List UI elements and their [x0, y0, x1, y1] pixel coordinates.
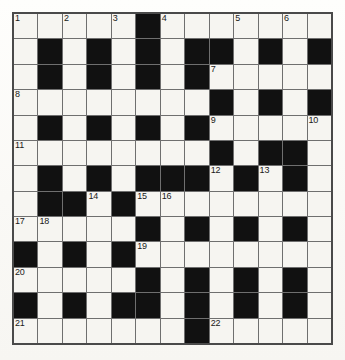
open-cell[interactable]	[112, 141, 135, 165]
open-cell[interactable]: 3	[112, 14, 135, 38]
open-cell[interactable]: 12	[210, 166, 233, 190]
open-cell[interactable]	[308, 217, 331, 241]
open-cell[interactable]	[161, 319, 184, 343]
open-cell[interactable]	[308, 293, 331, 317]
open-cell[interactable]	[259, 116, 282, 140]
open-cell[interactable]	[259, 242, 282, 266]
open-cell[interactable]	[234, 192, 257, 216]
open-cell[interactable]	[259, 192, 282, 216]
open-cell[interactable]	[210, 293, 233, 317]
open-cell[interactable]	[161, 242, 184, 266]
open-cell[interactable]	[234, 65, 257, 89]
open-cell[interactable]: 4	[161, 14, 184, 38]
open-cell[interactable]	[234, 39, 257, 63]
open-cell[interactable]: 20	[14, 268, 37, 292]
open-cell[interactable]	[87, 319, 110, 343]
open-cell[interactable]	[210, 268, 233, 292]
open-cell[interactable]: 5	[234, 14, 257, 38]
open-cell[interactable]: 17	[14, 217, 37, 241]
open-cell[interactable]	[87, 14, 110, 38]
open-cell[interactable]	[63, 166, 86, 190]
open-cell[interactable]	[136, 90, 159, 114]
open-cell[interactable]	[161, 90, 184, 114]
open-cell[interactable]	[308, 141, 331, 165]
open-cell[interactable]	[136, 141, 159, 165]
open-cell[interactable]	[185, 141, 208, 165]
open-cell[interactable]: 9	[210, 116, 233, 140]
open-cell[interactable]	[308, 319, 331, 343]
open-cell[interactable]	[234, 242, 257, 266]
open-cell[interactable]	[112, 166, 135, 190]
open-cell[interactable]	[308, 14, 331, 38]
open-cell[interactable]: 22	[210, 319, 233, 343]
open-cell[interactable]	[259, 14, 282, 38]
open-cell[interactable]	[87, 217, 110, 241]
open-cell[interactable]	[259, 319, 282, 343]
open-cell[interactable]	[161, 268, 184, 292]
open-cell[interactable]: 7	[210, 65, 233, 89]
open-cell[interactable]	[38, 14, 61, 38]
open-cell[interactable]	[210, 242, 233, 266]
open-cell[interactable]	[210, 14, 233, 38]
open-cell[interactable]	[259, 293, 282, 317]
open-cell[interactable]	[63, 268, 86, 292]
open-cell[interactable]	[308, 65, 331, 89]
open-cell[interactable]	[63, 116, 86, 140]
open-cell[interactable]	[112, 116, 135, 140]
open-cell[interactable]	[38, 319, 61, 343]
open-cell[interactable]	[283, 242, 306, 266]
open-cell[interactable]	[112, 90, 135, 114]
open-cell[interactable]: 8	[14, 90, 37, 114]
open-cell[interactable]	[234, 141, 257, 165]
open-cell[interactable]	[283, 192, 306, 216]
open-cell[interactable]	[185, 90, 208, 114]
open-cell[interactable]	[63, 141, 86, 165]
open-cell[interactable]	[87, 268, 110, 292]
open-cell[interactable]	[38, 242, 61, 266]
open-cell[interactable]: 11	[14, 141, 37, 165]
open-cell[interactable]	[234, 90, 257, 114]
open-cell[interactable]	[87, 293, 110, 317]
open-cell[interactable]	[14, 166, 37, 190]
open-cell[interactable]: 13	[259, 166, 282, 190]
open-cell[interactable]	[185, 14, 208, 38]
open-cell[interactable]	[63, 90, 86, 114]
open-cell[interactable]	[234, 116, 257, 140]
open-cell[interactable]	[87, 90, 110, 114]
open-cell[interactable]	[185, 242, 208, 266]
open-cell[interactable]	[38, 90, 61, 114]
open-cell[interactable]	[161, 39, 184, 63]
open-cell[interactable]	[308, 166, 331, 190]
open-cell[interactable]	[38, 293, 61, 317]
open-cell[interactable]	[283, 90, 306, 114]
open-cell[interactable]	[38, 268, 61, 292]
open-cell[interactable]: 18	[38, 217, 61, 241]
open-cell[interactable]	[161, 116, 184, 140]
open-cell[interactable]	[112, 268, 135, 292]
open-cell[interactable]	[161, 65, 184, 89]
open-cell[interactable]	[14, 65, 37, 89]
open-cell[interactable]	[63, 65, 86, 89]
open-cell[interactable]	[259, 217, 282, 241]
open-cell[interactable]: 15	[136, 192, 159, 216]
open-cell[interactable]: 10	[308, 116, 331, 140]
open-cell[interactable]	[283, 65, 306, 89]
open-cell[interactable]	[210, 217, 233, 241]
open-cell[interactable]	[112, 217, 135, 241]
open-cell[interactable]	[161, 141, 184, 165]
open-cell[interactable]	[185, 192, 208, 216]
open-cell[interactable]	[14, 39, 37, 63]
open-cell[interactable]	[308, 192, 331, 216]
open-cell[interactable]	[112, 65, 135, 89]
open-cell[interactable]	[210, 192, 233, 216]
open-cell[interactable]	[283, 319, 306, 343]
open-cell[interactable]	[308, 268, 331, 292]
open-cell[interactable]	[87, 141, 110, 165]
open-cell[interactable]	[63, 39, 86, 63]
open-cell[interactable]	[308, 242, 331, 266]
crossword-grid[interactable]: 12345678910111213141516171819202122	[14, 14, 331, 343]
open-cell[interactable]	[14, 192, 37, 216]
open-cell[interactable]	[63, 319, 86, 343]
open-cell[interactable]	[161, 293, 184, 317]
open-cell[interactable]	[259, 65, 282, 89]
